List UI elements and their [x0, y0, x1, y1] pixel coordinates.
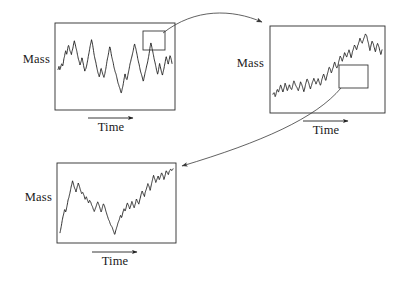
series-trace-fine	[60, 169, 173, 235]
fractal-zoom-figure: Mass Time Mass Time Mass Time	[0, 0, 409, 283]
time-axis-label-panel2: Time	[301, 123, 351, 138]
panel-frame	[55, 23, 175, 110]
panel-frame	[57, 163, 176, 243]
figure-canvas	[0, 0, 409, 283]
panel-bottom-left	[57, 163, 176, 252]
zoom-inset-box	[339, 65, 368, 88]
zoom-arrow-panel1-to-panel2	[163, 13, 262, 33]
panel-top-right	[270, 26, 385, 121]
panel-top-left	[55, 23, 175, 118]
mass-axis-label-panel2: Mass	[222, 56, 264, 71]
series-trace-coarse	[58, 40, 172, 93]
zoom-inset-box	[143, 31, 165, 50]
mass-axis-label-panel1: Mass	[8, 52, 50, 67]
mass-axis-label-panel3: Mass	[10, 190, 52, 205]
time-axis-label-panel1: Time	[86, 120, 136, 135]
time-axis-label-panel3: Time	[90, 254, 140, 269]
